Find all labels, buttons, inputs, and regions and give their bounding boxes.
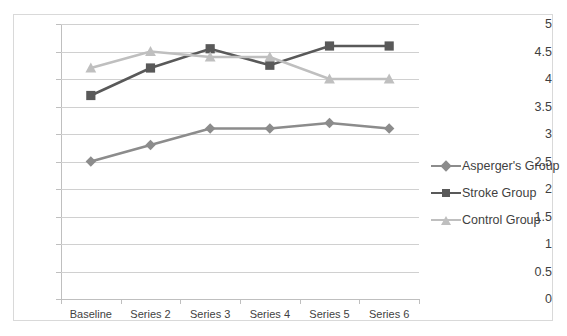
legend-label: Control Group — [462, 213, 541, 227]
legend-swatch-diamond-icon — [431, 160, 461, 172]
series-line — [91, 123, 389, 162]
data-point-marker — [325, 41, 334, 50]
data-point-marker — [205, 123, 215, 133]
series-lines — [61, 24, 419, 299]
x-tick-label: Series 4 — [250, 308, 290, 320]
data-point-marker — [145, 140, 155, 150]
y-tick-label: 1 — [518, 237, 552, 251]
x-tick-mark — [61, 299, 62, 304]
plot-area — [61, 24, 419, 299]
y-tick-label: 3 — [518, 127, 552, 141]
x-tick-mark — [240, 299, 241, 304]
x-tick-mark — [359, 299, 360, 304]
x-tick-label: Series 6 — [369, 308, 409, 320]
data-point-marker — [146, 63, 155, 72]
legend-entry[interactable]: Control Group — [431, 206, 551, 233]
legend-swatch-square-icon — [431, 187, 461, 199]
data-point-marker — [265, 123, 275, 133]
data-point-marker — [385, 41, 394, 50]
x-tick-mark — [419, 299, 420, 304]
x-tick-mark — [121, 299, 122, 304]
data-point-marker — [384, 123, 394, 133]
chart-legend: Asperger's GroupStroke GroupControl Grou… — [431, 152, 551, 233]
x-tick-label: Series 2 — [130, 308, 170, 320]
legend-label: Stroke Group — [462, 186, 536, 200]
y-tick-label: 4.5 — [518, 45, 552, 59]
y-tick-label: 0.5 — [518, 265, 552, 279]
legend-entry[interactable]: Asperger's Group — [431, 152, 551, 179]
x-tick-mark — [300, 299, 301, 304]
legend-entry[interactable]: Stroke Group — [431, 179, 551, 206]
data-point-marker — [86, 91, 95, 100]
legend-swatch-triangle-icon — [431, 214, 461, 226]
y-tick-label: 4 — [518, 72, 552, 86]
y-tick-label: 0 — [518, 292, 552, 306]
x-tick-mark — [180, 299, 181, 304]
x-tick-label: Baseline — [70, 308, 112, 320]
y-tick-label: 5 — [518, 17, 552, 31]
chart-frame: 00.511.522.533.544.55 BaselineSeries 2Se… — [13, 14, 553, 321]
data-point-marker — [86, 156, 96, 166]
data-point-marker — [324, 118, 334, 128]
x-tick-label: Series 3 — [190, 308, 230, 320]
series-line — [91, 46, 389, 96]
y-tick-label: 3.5 — [518, 100, 552, 114]
data-point-marker — [265, 61, 274, 70]
x-tick-label: Series 5 — [309, 308, 349, 320]
legend-label: Asperger's Group — [462, 159, 560, 173]
